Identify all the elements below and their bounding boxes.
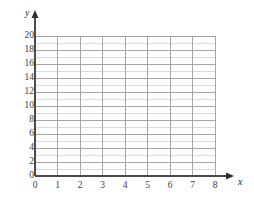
x-tick-label: 7: [190, 181, 195, 191]
x-tick-label: 8: [213, 181, 218, 191]
x-tick-label: 2: [78, 181, 83, 191]
x-tick-label: 0: [33, 181, 38, 191]
y-tick-label: 6: [29, 129, 34, 139]
y-tick-label: 16: [25, 59, 35, 69]
coordinate-grid-figure: 0 2 4 6 8 10 12 14 16 18 20 0 1 2 3 4 5 …: [0, 0, 254, 210]
y-tick-label: 20: [25, 31, 35, 41]
y-tick-label: 2: [29, 157, 34, 167]
y-axis-label: y: [25, 8, 29, 18]
y-tick-label: 4: [29, 143, 34, 153]
y-tick-label: 10: [25, 101, 35, 111]
plot-area-svg: [0, 0, 254, 210]
x-tick-label: 6: [168, 181, 173, 191]
x-tick-label: 5: [145, 181, 150, 191]
x-axis-line: [35, 173, 234, 180]
y-tick-label: 14: [25, 73, 35, 83]
x-tick-label: 4: [123, 181, 128, 191]
y-tick-label: 8: [29, 115, 34, 125]
x-tick-label: 1: [55, 181, 60, 191]
y-tick-label: 12: [25, 87, 35, 97]
y-tick-label: 18: [25, 45, 35, 55]
x-tick-label: 3: [100, 181, 105, 191]
x-axis-label: x: [238, 177, 242, 187]
